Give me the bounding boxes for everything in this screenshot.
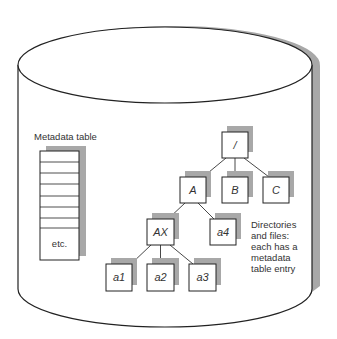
tree-node-root: / — [222, 132, 248, 158]
svg-text:Directories: Directories — [251, 219, 297, 230]
svg-text:AX: AX — [152, 226, 168, 238]
svg-text:C: C — [272, 184, 280, 196]
file-system-diagram: Metadata table etc. — [0, 0, 337, 339]
svg-text:a1: a1 — [113, 271, 125, 283]
tree-node-a1: a1 — [106, 264, 132, 291]
metadata-table-label: Metadata table — [34, 131, 97, 142]
svg-text:A: A — [188, 184, 196, 196]
svg-text:each has a: each has a — [251, 241, 298, 252]
svg-text:a4: a4 — [217, 226, 229, 238]
svg-text:a2: a2 — [154, 271, 166, 283]
cylinder-top-ellipse — [18, 27, 312, 103]
tree-node-a3: a3 — [189, 264, 216, 291]
tree-node-AX: AX — [147, 219, 174, 245]
svg-text:table entry: table entry — [251, 263, 296, 274]
directories-caption: Directories and files: each has a metada… — [251, 219, 298, 274]
tree-node-B: B — [222, 177, 248, 203]
svg-text:B: B — [231, 184, 238, 196]
tree-node-a2: a2 — [147, 264, 174, 291]
tree-node-a4: a4 — [210, 219, 236, 245]
metadata-table-etc: etc. — [52, 238, 67, 249]
tree-node-A: A — [180, 177, 206, 203]
svg-text:a3: a3 — [196, 271, 209, 283]
tree-node-C: C — [263, 177, 289, 203]
svg-text:and files:: and files: — [251, 230, 289, 241]
svg-text:metadata: metadata — [251, 252, 291, 263]
